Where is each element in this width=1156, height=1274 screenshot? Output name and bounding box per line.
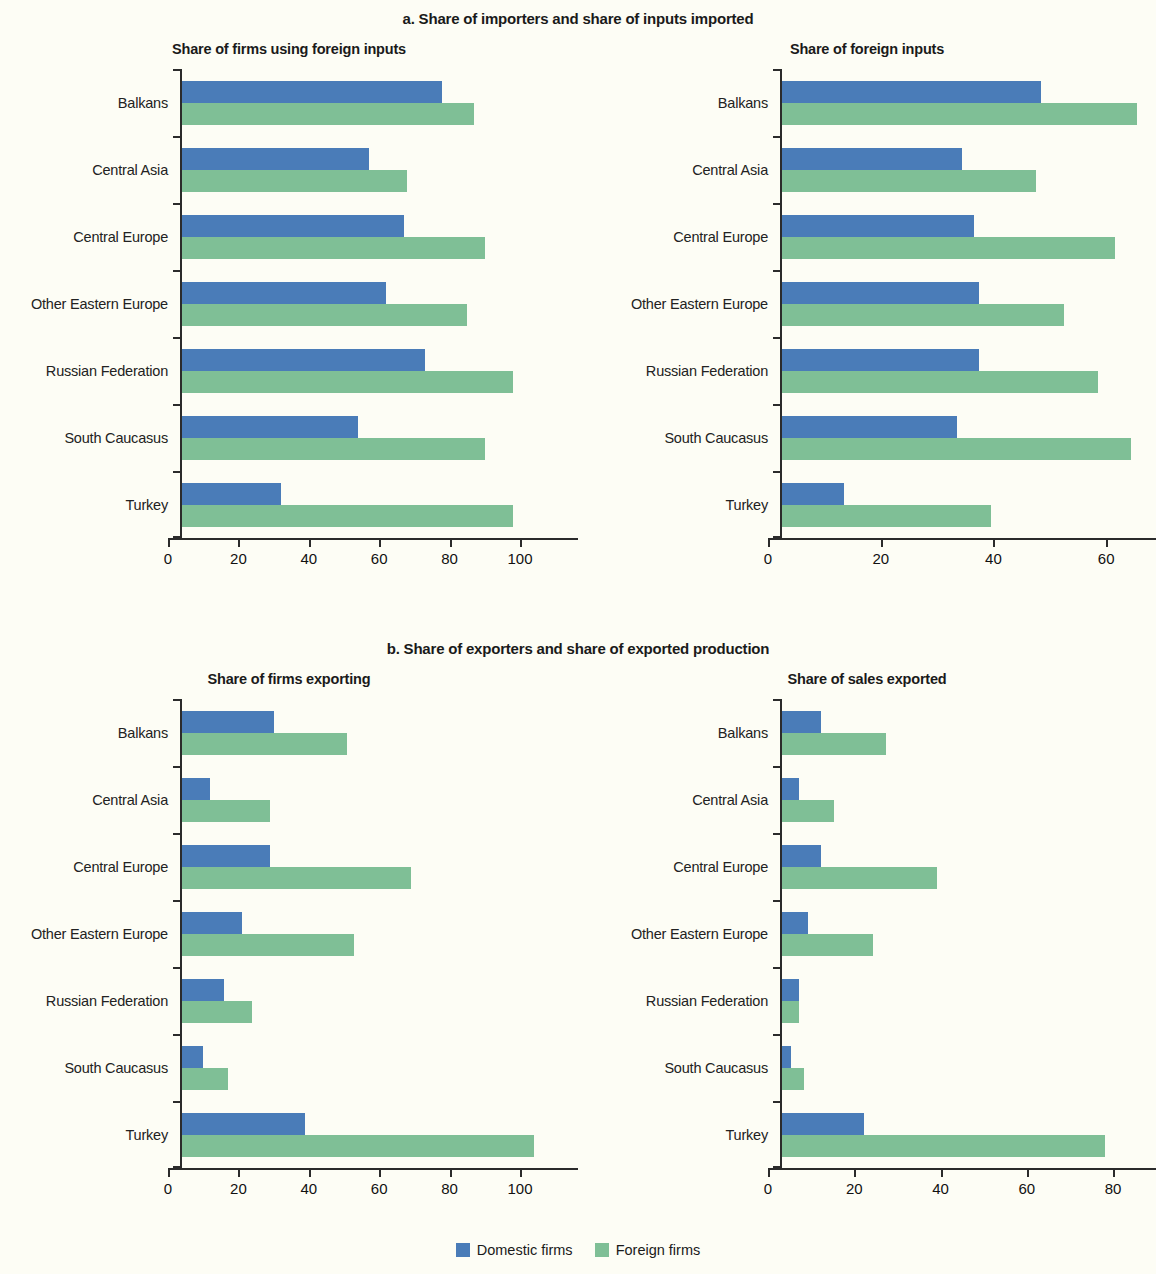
green-square-swatch-icon <box>595 1243 609 1257</box>
x-axis-tick <box>768 1168 770 1177</box>
category-label: Russian Federation <box>0 967 180 1034</box>
bar-group <box>180 699 578 766</box>
y-axis-tick <box>173 699 182 701</box>
bar-domestic <box>782 483 844 505</box>
x-axis-tick-label: 40 <box>300 550 317 567</box>
bar-domestic <box>182 349 425 371</box>
plot-area: BalkansCentral AsiaCentral EuropeOther E… <box>578 699 1156 1208</box>
bar-foreign <box>182 371 513 393</box>
bar-domestic <box>782 1113 864 1135</box>
bar-group <box>180 471 578 538</box>
category-label: Central Europe <box>0 833 180 900</box>
x-axis-tick <box>854 1168 856 1177</box>
chart-legend: Domestic firms Foreign firms <box>0 1242 1156 1258</box>
bar-foreign <box>782 1001 799 1023</box>
bar-group <box>780 337 1156 404</box>
bar-group <box>180 136 578 203</box>
bar-group <box>780 833 1156 900</box>
bar-foreign <box>182 800 270 822</box>
chart-category-row: Balkans <box>0 69 578 136</box>
plot-area: BalkansCentral AsiaCentral EuropeOther E… <box>0 699 578 1208</box>
x-axis-scale: 020406080100 <box>168 538 578 578</box>
bar-group <box>180 766 578 833</box>
bar-foreign <box>182 304 467 326</box>
bar-foreign <box>782 438 1131 460</box>
x-axis-tick <box>1113 1168 1115 1177</box>
bar-group <box>180 967 578 1034</box>
bar-foreign <box>782 304 1064 326</box>
category-label: Turkey <box>0 471 180 538</box>
bar-group <box>180 404 578 471</box>
x-axis-spacer <box>0 1168 168 1208</box>
bar-group <box>180 900 578 967</box>
y-axis-tick <box>173 1034 182 1036</box>
bar-domestic <box>782 416 957 438</box>
x-axis-tick-label: 80 <box>441 1180 458 1197</box>
chart-category-row: Central Europe <box>578 203 1156 270</box>
bar-foreign <box>782 733 886 755</box>
category-label: Turkey <box>578 471 780 538</box>
chart-title: Share of firms exporting <box>0 671 578 687</box>
y-axis-tick <box>173 337 182 339</box>
bar-domestic <box>782 711 821 733</box>
bar-group <box>780 900 1156 967</box>
category-label: Other Eastern Europe <box>0 900 180 967</box>
chart-category-row: Russian Federation <box>0 967 578 1034</box>
bar-domestic <box>782 215 974 237</box>
chart-category-row: Central Europe <box>578 833 1156 900</box>
chart-category-row: Other Eastern Europe <box>578 900 1156 967</box>
x-axis-tick <box>881 538 883 547</box>
bar-foreign <box>782 505 991 527</box>
x-axis-tick-label: 80 <box>441 550 458 567</box>
x-axis-tick <box>450 1168 452 1177</box>
y-axis-tick <box>173 270 182 272</box>
bar-group <box>180 69 578 136</box>
x-axis-tick-label: 0 <box>764 550 772 567</box>
x-axis-tick-label: 20 <box>230 1180 247 1197</box>
bar-group <box>780 471 1156 538</box>
x-axis-tick-label: 20 <box>872 550 889 567</box>
x-axis-tick-label: 60 <box>371 1180 388 1197</box>
chart-category-row: Turkey <box>0 1101 578 1168</box>
x-axis-tick-label: 80 <box>1105 1180 1122 1197</box>
x-axis-tick <box>238 538 240 547</box>
chart-title: Share of firms using foreign inputs <box>0 41 578 57</box>
chart-category-row: Central Europe <box>0 833 578 900</box>
bar-domestic <box>182 845 270 867</box>
bar-foreign <box>782 1068 804 1090</box>
chart-category-row: South Caucasus <box>578 1034 1156 1101</box>
x-axis-tick <box>168 1168 170 1177</box>
category-label: South Caucasus <box>0 404 180 471</box>
legend-label: Domestic firms <box>477 1242 573 1258</box>
bar-domestic <box>782 979 799 1001</box>
y-axis-tick <box>173 136 182 138</box>
bar-foreign <box>782 934 873 956</box>
y-axis-tick <box>773 833 782 835</box>
y-axis-tick <box>773 766 782 768</box>
bar-group <box>180 833 578 900</box>
chart-category-row: South Caucasus <box>0 1034 578 1101</box>
x-axis-line <box>768 1168 1156 1170</box>
bar-foreign <box>782 867 937 889</box>
x-axis-scale: 0204060 <box>768 538 1156 578</box>
legend-item-foreign-firms: Foreign firms <box>595 1242 701 1258</box>
bar-group <box>780 766 1156 833</box>
bar-foreign <box>782 371 1098 393</box>
x-axis: 020406080 <box>578 1168 1156 1208</box>
bar-foreign <box>182 170 407 192</box>
y-axis-tick <box>773 699 782 701</box>
y-axis-tick <box>773 967 782 969</box>
plot-area: BalkansCentral AsiaCentral EuropeOther E… <box>578 69 1156 578</box>
y-axis-tick <box>173 203 182 205</box>
bar-domestic <box>782 282 979 304</box>
bar-domestic <box>782 81 1041 103</box>
bar-group <box>180 1034 578 1101</box>
chart-share-of-firms-exporting: Share of firms exporting BalkansCentral … <box>0 657 578 1208</box>
category-label: Turkey <box>0 1101 180 1168</box>
chart-title: Share of foreign inputs <box>578 41 1156 57</box>
category-label: Balkans <box>578 69 780 136</box>
x-axis-tick <box>450 538 452 547</box>
bar-group <box>780 1101 1156 1168</box>
chart-category-row: Turkey <box>0 471 578 538</box>
bar-domestic <box>182 979 224 1001</box>
